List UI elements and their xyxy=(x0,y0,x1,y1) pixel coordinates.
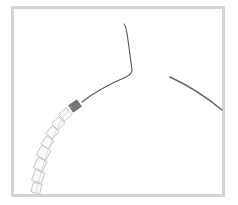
jewelry-photo xyxy=(0,0,238,205)
bead-strand xyxy=(31,108,72,194)
wire-right xyxy=(170,77,222,110)
crimp-bead xyxy=(69,100,82,112)
wire-left xyxy=(82,24,132,102)
